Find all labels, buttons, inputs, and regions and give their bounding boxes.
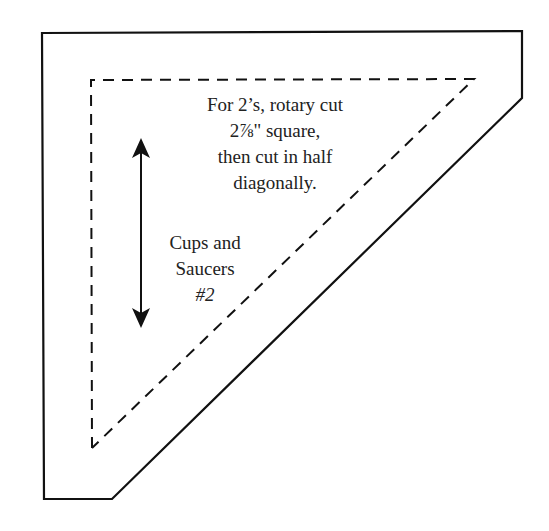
- instruction-line: For 2’s, rotary cut: [150, 92, 400, 118]
- pattern-number: #2: [140, 282, 270, 308]
- pattern-label: Cups and Saucers #2: [140, 230, 270, 308]
- quilt-template-diagram: [0, 0, 549, 531]
- instruction-line: 2⅞" square,: [150, 118, 400, 144]
- label-line: Cups and: [140, 230, 270, 256]
- instruction-line: then cut in half: [150, 144, 400, 170]
- label-line: Saucers: [140, 256, 270, 282]
- instruction-line: diagonally.: [150, 170, 400, 196]
- cutting-instructions: For 2’s, rotary cut 2⅞" square, then cut…: [150, 92, 400, 196]
